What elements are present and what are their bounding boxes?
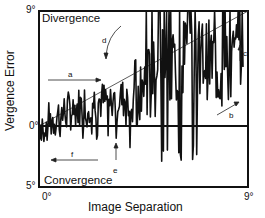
annotation-f: f [71, 150, 73, 159]
annotation-d: d [102, 36, 106, 45]
annotation-b: b [229, 111, 233, 120]
region-label-divergence: Divergence [42, 12, 100, 24]
arrow-d-icon [106, 26, 121, 55]
x-tick-start: 0° [42, 191, 52, 202]
y-tick-bottom: 5° [26, 180, 36, 191]
arrowhead-e-icon [114, 143, 118, 148]
x-axis-label: Image Separation [88, 200, 183, 214]
region-label-convergence: Convergence [44, 174, 112, 186]
arrowhead-a-icon [96, 78, 101, 82]
trace-line [39, 11, 243, 161]
annotation-c: c [243, 49, 247, 58]
y-tick-zero: 0° [29, 120, 39, 131]
y-tick-top: 9° [26, 4, 36, 15]
plot-frame [39, 11, 248, 187]
arrowhead-d-icon [104, 53, 108, 59]
x-tick-end: 9° [244, 191, 254, 202]
arrowhead-b-icon [234, 102, 239, 106]
vergence-trace [39, 11, 243, 161]
y-axis-label: Vergence Error [3, 51, 17, 131]
arrowhead-f-icon [51, 158, 56, 162]
chart-canvas [0, 0, 265, 218]
annotation-a: a [68, 70, 72, 79]
annotation-e: e [113, 166, 117, 175]
